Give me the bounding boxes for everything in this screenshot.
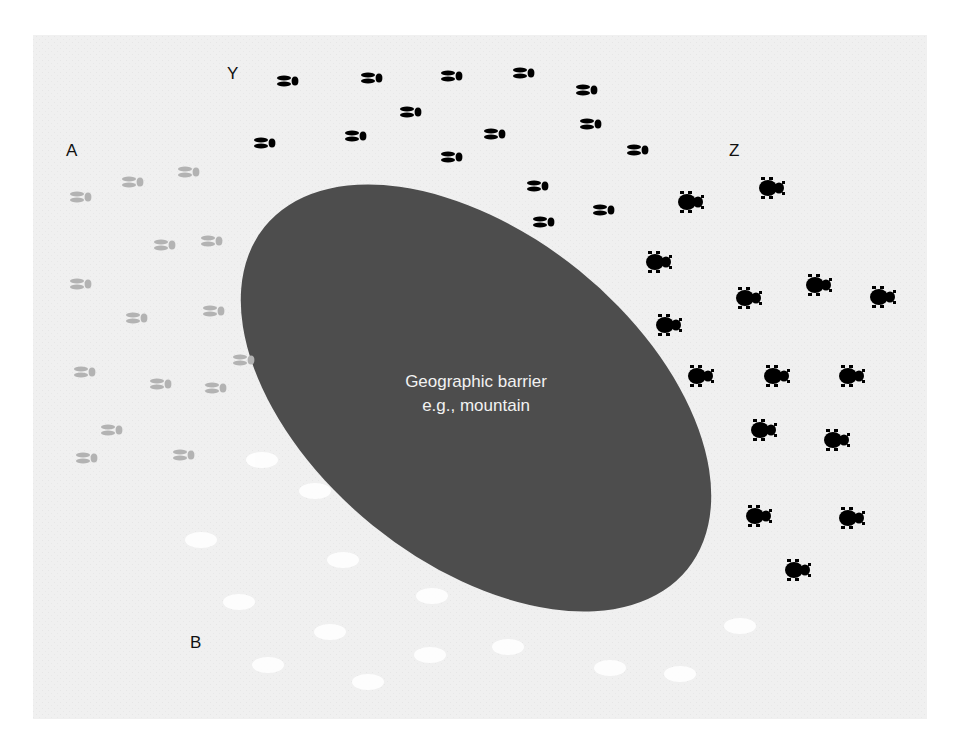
label-z: Z (729, 141, 739, 161)
barrier-label-line2: e.g., mountain (336, 394, 616, 418)
label-y: Y (227, 64, 238, 84)
barrier-label: Geographic barrier e.g., mountain (336, 370, 616, 418)
barrier-label-line1: Geographic barrier (336, 370, 616, 394)
label-b: B (190, 633, 201, 653)
speciation-diagram: A Y Z B Geographic barrier e.g., mountai… (0, 0, 957, 746)
label-a: A (66, 141, 77, 161)
